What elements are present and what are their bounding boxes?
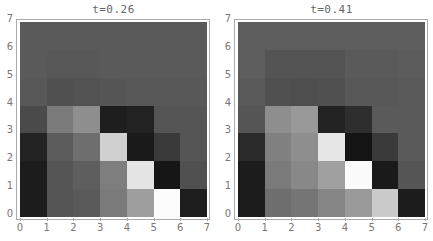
y-tick-label: 6 — [221, 41, 231, 52]
x-tick-label: 3 — [313, 222, 323, 233]
heatmap-cell — [238, 106, 265, 134]
heatmap-cell — [398, 106, 425, 134]
x-tick-label: 5 — [367, 222, 377, 233]
x-tick-label: 7 — [420, 222, 430, 233]
heatmap-cell — [318, 133, 345, 161]
heatmap-cell — [398, 189, 425, 217]
heatmap-cell — [372, 22, 399, 50]
heatmap-cell — [238, 50, 265, 78]
heatmap-cell — [238, 22, 265, 50]
heatmap-cell — [238, 78, 265, 106]
heatmap-cell — [372, 106, 399, 134]
heatmap-cell — [291, 161, 318, 189]
heatmap-cell — [345, 161, 372, 189]
heatmap-cell — [318, 50, 345, 78]
heatmap-cell — [291, 133, 318, 161]
heatmap-cell — [265, 22, 292, 50]
heatmap-cell — [318, 22, 345, 50]
x-tick-mark — [265, 218, 266, 221]
heatmap-cell — [398, 22, 425, 50]
x-tick-label: 0 — [233, 222, 243, 233]
heatmap-cell — [291, 50, 318, 78]
heatmap-cell — [265, 189, 292, 217]
heatmap-cell — [265, 50, 292, 78]
heatmap-cell — [318, 106, 345, 134]
heatmap-cell — [345, 78, 372, 106]
heatmap-cell — [291, 189, 318, 217]
y-tick-label: 3 — [221, 124, 231, 135]
heatmap-cell — [265, 106, 292, 134]
y-tick-label: 7 — [221, 13, 231, 24]
heatmap-panel-1: t=0.410011223344556677 — [0, 0, 433, 241]
x-tick-mark — [318, 218, 319, 221]
heatmap-cell — [345, 106, 372, 134]
heatmap-cell — [398, 161, 425, 189]
y-tick-label: 2 — [221, 152, 231, 163]
chart-title: t=0.41 — [238, 3, 425, 16]
y-tick-label: 4 — [221, 97, 231, 108]
x-tick-label: 2 — [286, 222, 296, 233]
heatmap-cell — [345, 189, 372, 217]
y-tick-label: 5 — [221, 69, 231, 80]
heatmap-cell — [265, 133, 292, 161]
heatmap-cell — [398, 133, 425, 161]
heatmap-cell — [238, 189, 265, 217]
heatmap-cell — [238, 161, 265, 189]
heatmap-cell — [398, 78, 425, 106]
x-tick-mark — [345, 218, 346, 221]
heatmap-cell — [318, 78, 345, 106]
heatmap-cell — [345, 22, 372, 50]
heatmap-cell — [318, 161, 345, 189]
x-tick-mark — [372, 218, 373, 221]
heatmap-grid — [238, 22, 425, 217]
x-tick-label: 1 — [260, 222, 270, 233]
heatmap-cell — [398, 50, 425, 78]
heatmap-cell — [372, 189, 399, 217]
heatmap-cell — [372, 78, 399, 106]
x-tick-mark — [425, 218, 426, 221]
heatmap-cell — [372, 133, 399, 161]
x-tick-mark — [398, 218, 399, 221]
heatmap-cell — [265, 78, 292, 106]
heatmap-cell — [291, 106, 318, 134]
heatmap-cell — [265, 161, 292, 189]
x-tick-label: 6 — [393, 222, 403, 233]
heatmap-cell — [318, 189, 345, 217]
heatmap-cell — [345, 133, 372, 161]
heatmap-cell — [372, 161, 399, 189]
x-tick-label: 4 — [340, 222, 350, 233]
heatmap-cell — [291, 78, 318, 106]
heatmap-cell — [372, 50, 399, 78]
heatmap-cell — [238, 133, 265, 161]
y-tick-label: 1 — [221, 180, 231, 191]
x-tick-mark — [291, 218, 292, 221]
heatmap-cell — [291, 22, 318, 50]
x-tick-mark — [238, 218, 239, 221]
y-tick-label: 0 — [221, 208, 231, 219]
heatmap-cell — [345, 50, 372, 78]
